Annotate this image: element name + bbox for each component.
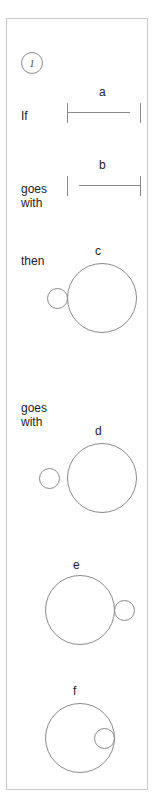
relation-word-goes-with-1: goes with [21, 182, 47, 210]
figure-c-large-circle [67, 263, 137, 333]
figure-b-bar [79, 185, 141, 186]
figure-c-small-circle [47, 288, 68, 309]
figure-e-large-circle [45, 575, 115, 645]
figure-d [37, 439, 153, 519]
figure-f [37, 699, 153, 781]
figure-e-small-circle [114, 600, 135, 621]
figure-d-large-circle [67, 443, 137, 513]
figure-e [37, 571, 153, 653]
relation-word-if: If [21, 109, 28, 123]
item-number-label: 1 [29, 58, 35, 69]
figure-a-left-tick [67, 103, 68, 123]
figure-letter-c: c [95, 245, 101, 257]
figure-b-right-tick [140, 176, 141, 196]
figure-d-small-circle [39, 468, 60, 489]
figure-f-small-circle [94, 728, 115, 749]
figure-b [63, 174, 145, 198]
figure-letter-f: f [73, 685, 76, 697]
figure-letter-a: a [99, 86, 106, 98]
relation-word-then: then [21, 254, 44, 268]
figure-letter-e: e [73, 559, 80, 571]
figure-letter-d: d [95, 425, 102, 437]
relation-word-goes-with-2: goes with [21, 401, 47, 429]
figure-a-bar [67, 112, 130, 113]
item-number-badge: 1 [21, 52, 43, 74]
figure-a [63, 101, 145, 125]
figure-b-left-tick [67, 176, 68, 196]
figure-c [43, 259, 153, 339]
figure-a-right-tick [140, 103, 141, 123]
analogy-item-figure: 1 If a goes with b then c [0, 0, 156, 808]
figure-letter-b: b [99, 159, 106, 171]
item-panel: 1 If a goes with b then c [6, 18, 148, 790]
